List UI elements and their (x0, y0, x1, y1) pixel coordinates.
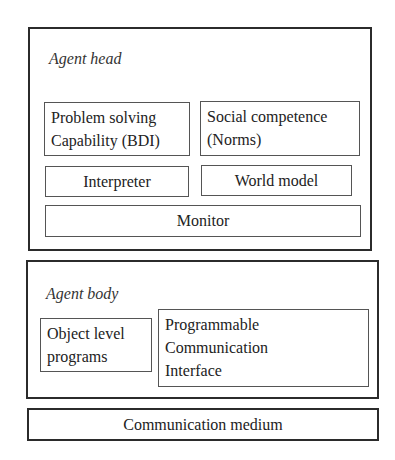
social-competence-label: Social competence (Norms) (207, 105, 327, 151)
problem-solving-label: Problem solving Capability (BDI) (51, 106, 160, 152)
monitor-label: Monitor (177, 212, 229, 230)
monitor-box: Monitor (45, 205, 361, 237)
programmable-interface-box: Programmable Communication Interface (158, 309, 369, 387)
social-competence-box: Social competence (Norms) (200, 101, 360, 156)
communication-medium-box: Communication medium (27, 408, 379, 441)
object-level-programs-box: Object level programs (40, 318, 152, 372)
agent-head-title: Agent head (49, 50, 121, 68)
world-model-label: World model (235, 172, 319, 190)
programmable-interface-label: Programmable Communication Interface (165, 313, 268, 382)
interpreter-box: Interpreter (45, 166, 189, 197)
problem-solving-box: Problem solving Capability (BDI) (44, 102, 190, 156)
communication-medium-label: Communication medium (123, 416, 283, 434)
world-model-box: World model (201, 165, 352, 196)
agent-body-title: Agent body (46, 285, 118, 303)
object-level-programs-label: Object level programs (47, 322, 125, 368)
interpreter-label: Interpreter (83, 173, 151, 191)
